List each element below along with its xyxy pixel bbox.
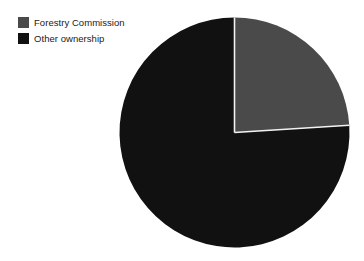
legend-swatch-other-ownership: [18, 33, 29, 44]
legend-label-forestry-commission: Forestry Commission: [34, 17, 125, 28]
pie-chart-figure: Forestry Commission Other ownership: [0, 0, 364, 261]
chart-legend: Forestry Commission Other ownership: [18, 14, 125, 46]
pie-slice-forestry-commission[interactable]: [235, 18, 350, 133]
legend-label-other-ownership: Other ownership: [34, 33, 104, 44]
legend-swatch-forestry-commission: [18, 17, 29, 28]
legend-item-forestry-commission[interactable]: Forestry Commission: [18, 14, 125, 30]
legend-item-other-ownership[interactable]: Other ownership: [18, 30, 125, 46]
